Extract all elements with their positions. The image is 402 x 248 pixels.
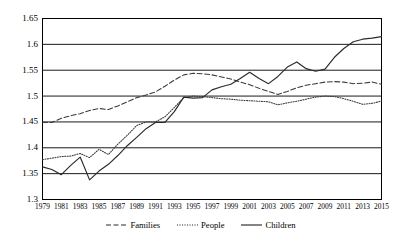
legend-line-swatch [177,221,198,229]
x-tick-label: 2015 [368,203,396,210]
series-line-children [43,37,382,180]
y-tick-label: 1.45 [2,117,38,126]
y-tick-label: 1.5 [2,92,38,101]
y-tick-label: 1.55 [2,66,38,75]
y-tick-label: 1.35 [2,169,38,178]
legend-line-swatch [106,221,127,229]
y-tick-label: 1.4 [2,143,38,152]
legend-label: Children [265,221,295,230]
legend-item-children[interactable]: Children [241,221,295,230]
legend-item-families[interactable]: Families [106,221,160,230]
y-tick-label: 1.6 [2,40,38,49]
plot-area-border [43,19,382,200]
series-layer [43,37,382,180]
y-tick-label: 1.65 [2,14,38,23]
legend-label: People [201,221,224,230]
legend-label: Families [130,221,160,230]
legend-line-swatch [241,221,262,229]
gridlines [43,19,382,200]
line-chart: 1.31.351.41.451.51.551.61.65 19791981198… [0,0,402,248]
series-line-people [43,96,382,160]
legend-item-people[interactable]: People [177,221,224,230]
chart-legend: FamiliesPeopleChildren [0,221,402,230]
